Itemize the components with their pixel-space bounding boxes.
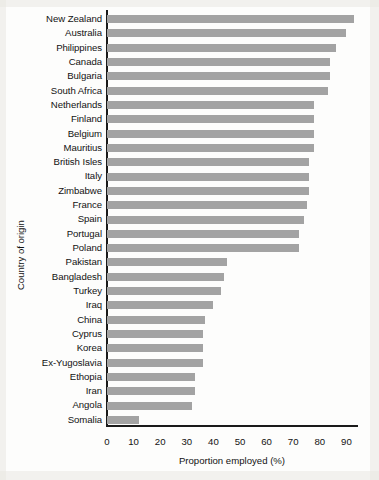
bar-row (107, 298, 355, 312)
category-label: New Zealand (14, 12, 102, 26)
bar-row (107, 184, 355, 198)
bar (107, 187, 309, 195)
bar-row (107, 127, 355, 141)
category-label: Ex-Yugoslavia (14, 356, 102, 370)
x-tick-label: 10 (128, 436, 139, 447)
bar-chart: Country of origin New ZealandAustraliaPh… (0, 0, 379, 480)
page-edge-bottom (0, 471, 379, 480)
bar-row (107, 356, 355, 370)
bar (107, 44, 336, 52)
bar-row (107, 41, 355, 55)
bar-row (107, 341, 355, 355)
bar-row (107, 370, 355, 384)
bar (107, 244, 299, 252)
bar (107, 373, 195, 381)
bar (107, 15, 354, 23)
category-label: Philippines (14, 41, 102, 55)
bar (107, 230, 299, 238)
bar (107, 344, 203, 352)
category-label: Iraq (14, 298, 102, 312)
category-label: Bulgaria (14, 69, 102, 83)
category-label: Finland (14, 112, 102, 126)
bar-row (107, 12, 355, 26)
category-label: Pakistan (14, 255, 102, 269)
category-label: Netherlands (14, 98, 102, 112)
x-tick-label: 0 (104, 436, 109, 447)
bar-row (107, 98, 355, 112)
category-label: Somalia (14, 413, 102, 427)
category-label: Cyprus (14, 327, 102, 341)
bar-row (107, 241, 355, 255)
bar-row (107, 55, 355, 69)
bar-row (107, 84, 355, 98)
page-edge-top (0, 0, 379, 7)
bar-row (107, 384, 355, 398)
bar-row (107, 212, 355, 226)
category-label: Angola (14, 398, 102, 412)
bar (107, 416, 139, 424)
category-label: Poland (14, 241, 102, 255)
bar-row (107, 327, 355, 341)
bar-row (107, 169, 355, 183)
bars-container (107, 12, 355, 427)
x-tick-label: 30 (181, 436, 192, 447)
bar-row (107, 26, 355, 40)
bar (107, 216, 304, 224)
bar (107, 287, 221, 295)
category-label: Ethopia (14, 370, 102, 384)
category-label: China (14, 313, 102, 327)
category-label: France (14, 198, 102, 212)
bar-row (107, 227, 355, 241)
category-label: Australia (14, 26, 102, 40)
bar-row (107, 69, 355, 83)
x-tick-label: 50 (235, 436, 246, 447)
bar (107, 72, 330, 80)
x-tick-label: 80 (314, 436, 325, 447)
x-tick-label: 40 (208, 436, 219, 447)
category-label: Belgium (14, 127, 102, 141)
bar-row (107, 141, 355, 155)
category-label: Portugal (14, 227, 102, 241)
x-tick-label: 90 (341, 436, 352, 447)
x-axis-title: Proportion employed (%) (106, 455, 358, 466)
bar (107, 101, 314, 109)
bar-row (107, 155, 355, 169)
bar-row (107, 313, 355, 327)
bar (107, 144, 314, 152)
category-axis-labels: New ZealandAustraliaPhilippinesCanadaBul… (14, 12, 102, 427)
bar (107, 387, 195, 395)
x-tick-label: 20 (155, 436, 166, 447)
bar (107, 359, 203, 367)
bar (107, 87, 328, 95)
category-label: Canada (14, 55, 102, 69)
bar (107, 273, 224, 281)
bar (107, 29, 346, 37)
category-label: Iran (14, 384, 102, 398)
bar-row (107, 413, 355, 427)
category-label: Korea (14, 341, 102, 355)
category-label: South Africa (14, 84, 102, 98)
page-edge-right (370, 0, 379, 480)
bar-row (107, 255, 355, 269)
bar (107, 173, 309, 181)
bar-row (107, 398, 355, 412)
bar (107, 330, 203, 338)
category-label: Zimbabwe (14, 184, 102, 198)
bar-row (107, 270, 355, 284)
category-label: Bangladesh (14, 270, 102, 284)
category-label: Spain (14, 212, 102, 226)
bar (107, 158, 309, 166)
x-tick-label: 60 (261, 436, 272, 447)
bar (107, 201, 307, 209)
category-label: Turkey (14, 284, 102, 298)
bar-row (107, 198, 355, 212)
x-tick-label: 70 (288, 436, 299, 447)
category-label: British Isles (14, 155, 102, 169)
category-label: Italy (14, 169, 102, 183)
bar (107, 301, 213, 309)
bar (107, 130, 314, 138)
bar-row (107, 112, 355, 126)
bar-row (107, 284, 355, 298)
bar (107, 58, 330, 66)
bar (107, 115, 314, 123)
